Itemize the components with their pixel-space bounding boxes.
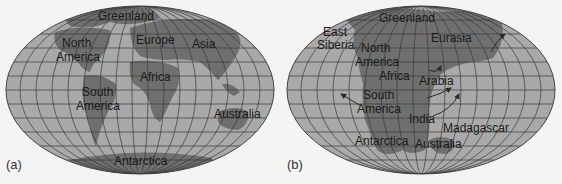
panel-tag-a: (a): [6, 157, 22, 172]
panel-tag-b: (b): [287, 157, 303, 172]
label-eurasia: Eurasia: [431, 32, 472, 44]
label-east-siberia-1: East: [323, 26, 347, 38]
label-north-america-2: America: [355, 56, 399, 68]
map-panel-b: East Siberia Greenland North America Eur…: [281, 0, 562, 184]
label-australia: Australia: [415, 138, 462, 150]
label-south-america-2: America: [357, 103, 401, 115]
label-antarctica: Antarctica: [355, 135, 408, 147]
label-south-america-1: South: [82, 86, 113, 98]
label-north-america-1: North: [361, 42, 390, 54]
label-antarctica: Antarctica: [114, 155, 167, 167]
label-greenland: Greenland: [379, 12, 435, 24]
label-madagascar: Madagascar: [443, 122, 509, 134]
label-europe: Europe: [136, 34, 175, 46]
label-arabia: Arabia: [419, 75, 454, 87]
label-north-america-2: America: [56, 51, 100, 63]
label-greenland: Greenland: [98, 10, 154, 22]
label-asia: Asia: [192, 38, 215, 50]
label-east-siberia-2: Siberia: [317, 39, 354, 51]
label-south-america-2: America: [76, 100, 120, 112]
label-india: India: [409, 113, 435, 125]
label-australia: Australia: [214, 108, 261, 120]
map-panel-a: Greenland North America Europe Asia Afri…: [0, 0, 281, 184]
label-africa: Africa: [379, 70, 410, 82]
label-north-america-1: North: [62, 37, 91, 49]
label-africa: Africa: [140, 71, 171, 83]
label-south-america-1: South: [363, 89, 394, 101]
